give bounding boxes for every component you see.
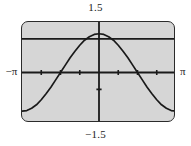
x-min-label: −π [2,66,21,77]
x-max-label: π [176,66,190,77]
plot-canvas [22,22,175,122]
figure-container: 1.5 −π π −1.5 [0,0,191,146]
plot-viewport [21,21,175,122]
y-max-label: 1.5 [0,2,191,13]
y-min-label: −1.5 [0,129,191,140]
